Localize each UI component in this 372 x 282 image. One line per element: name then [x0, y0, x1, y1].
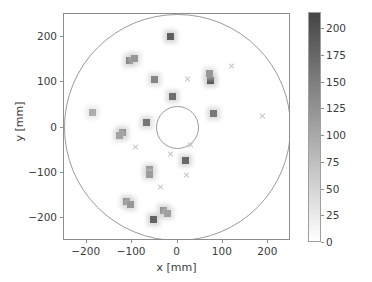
data-point-empty-channel	[187, 141, 194, 148]
colorbar-tick-label: 0	[326, 236, 333, 248]
data-point-sipm-hit	[167, 213, 168, 214]
colorbar-tick-mark	[321, 82, 324, 83]
data-point-sipm-hit	[92, 112, 93, 113]
y-axis-title: y [mm]	[13, 82, 26, 162]
colorbar-tick-mark	[321, 55, 324, 56]
colorbar-tick-mark	[321, 28, 324, 29]
x-tick-label: −200	[71, 245, 100, 257]
y-tick-mark	[60, 36, 63, 37]
y-tick-mark	[60, 81, 63, 82]
y-tick-label: −100	[19, 166, 57, 178]
plot-area	[64, 14, 289, 239]
y-tick-label: 200	[19, 30, 57, 42]
data-point-empty-channel	[157, 184, 164, 191]
data-point-core	[206, 70, 213, 77]
data-point-sipm-hit	[154, 79, 155, 80]
colorbar-tick-label: 100	[326, 129, 346, 141]
x-tick-label: 200	[257, 245, 277, 257]
colorbar-tick-mark	[321, 242, 324, 243]
colorbar-tick-label: 175	[326, 49, 346, 61]
colorbar-tick-label: 25	[326, 209, 339, 221]
x-tick-mark	[222, 240, 223, 243]
data-point-empty-channel	[132, 144, 139, 151]
colorbar-tick-mark	[321, 162, 324, 163]
data-point-empty-channel	[167, 150, 174, 157]
data-point-sipm-hit	[153, 219, 154, 220]
x-tick-label: −100	[117, 245, 146, 257]
data-point-empty-channel	[228, 62, 235, 69]
data-point-sipm-hit	[130, 204, 131, 205]
colorbar-tick-label: 50	[326, 183, 339, 195]
data-point-core	[182, 157, 189, 164]
colorbar-tick-label: 75	[326, 156, 339, 168]
colorbar-tick-mark	[321, 108, 324, 109]
data-point-core	[164, 210, 171, 217]
colorbar-tick-mark	[321, 135, 324, 136]
colorbar-gradient	[309, 13, 320, 241]
data-point-sipm-hit	[149, 174, 150, 175]
y-tick-label: −200	[19, 211, 57, 223]
data-point-core	[131, 55, 138, 62]
data-point-sipm-hit	[209, 73, 210, 74]
x-tick-mark	[131, 240, 132, 243]
data-point-sipm-hit	[170, 36, 171, 37]
data-point-sipm-hit	[134, 58, 135, 59]
data-point-core	[167, 33, 174, 40]
x-tick-mark	[267, 240, 268, 243]
data-point-empty-channel	[184, 76, 191, 83]
colorbar-tick-mark	[321, 189, 324, 190]
data-point-empty-channel	[183, 171, 190, 178]
colorbar-tick-label: 150	[326, 76, 346, 88]
x-tick-label: 100	[212, 245, 232, 257]
data-point-sipm-hit	[185, 160, 186, 161]
figure-canvas: −200−1000100200 −200−1000100200 x [mm] y…	[0, 0, 372, 282]
data-point-sipm-hit	[213, 113, 214, 114]
data-point-core	[210, 110, 217, 117]
data-point-sipm-hit	[172, 96, 173, 97]
data-point-core	[150, 216, 157, 223]
data-point-sipm-hit	[146, 122, 147, 123]
x-tick-mark	[177, 240, 178, 243]
colorbar-tick-label: 200	[326, 22, 346, 34]
data-point-sipm-hit	[119, 135, 120, 136]
x-tick-label: 0	[173, 245, 180, 257]
data-point-core	[127, 201, 134, 208]
y-tick-mark	[60, 217, 63, 218]
data-point-core	[169, 93, 176, 100]
data-point-core	[116, 132, 123, 139]
colorbar-tick-mark	[321, 215, 324, 216]
scatter-plot-axes	[63, 13, 290, 240]
data-point-core	[151, 76, 158, 83]
x-tick-mark	[86, 240, 87, 243]
data-point-core	[89, 109, 96, 116]
data-point-core	[146, 171, 153, 178]
y-tick-mark	[60, 172, 63, 173]
colorbar-tick-label: 125	[326, 102, 346, 114]
colorbar	[308, 12, 321, 242]
y-tick-mark	[60, 127, 63, 128]
data-point-empty-channel	[259, 112, 266, 119]
x-axis-title: x [mm]	[63, 261, 290, 274]
data-point-core	[143, 119, 150, 126]
